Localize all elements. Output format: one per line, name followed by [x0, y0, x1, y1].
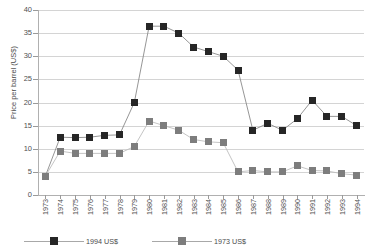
chart-legend: 1994 US$1973 US$: [24, 234, 246, 248]
data-point-marker: [235, 67, 242, 74]
x-tick-label: 1982: [175, 199, 184, 215]
y-tick-label: 10: [8, 144, 32, 153]
data-point-marker: [146, 23, 153, 30]
data-point-marker: [86, 134, 93, 141]
legend-swatch: [178, 237, 186, 245]
x-tick-label: 1979: [130, 199, 139, 215]
data-point-marker: [235, 168, 242, 175]
y-tick-label: 0: [8, 190, 32, 199]
y-tick-label: 30: [8, 51, 32, 60]
x-axis-line: [38, 195, 365, 196]
data-point-marker: [190, 136, 197, 143]
data-point-marker: [309, 97, 316, 104]
data-point-marker: [249, 127, 256, 134]
x-tick-label: 1975: [71, 199, 80, 215]
x-tick-label: 1989: [279, 199, 288, 215]
x-tick-label: 1991: [308, 199, 317, 215]
x-tick-label: 1990: [293, 199, 302, 215]
data-point-marker: [101, 150, 108, 157]
data-point-marker: [323, 113, 330, 120]
x-tick-label: 1988: [264, 199, 273, 215]
data-point-marker: [190, 44, 197, 51]
x-tick-label: 1974: [56, 199, 65, 215]
x-tick-label: 1985: [219, 199, 228, 215]
legend-entry: 1973 US$: [152, 237, 246, 246]
x-tick-label: 1973: [41, 199, 50, 215]
data-point-marker: [42, 173, 49, 180]
data-point-marker: [353, 172, 360, 179]
data-point-marker: [160, 23, 167, 30]
data-point-marker: [279, 127, 286, 134]
data-point-marker: [131, 143, 138, 150]
data-point-marker: [160, 122, 167, 129]
y-tick-label: 35: [8, 28, 32, 37]
x-tick-label: 1981: [160, 199, 169, 215]
data-point-marker: [57, 148, 64, 155]
y-tick-label: 25: [8, 74, 32, 83]
data-point-marker: [57, 134, 64, 141]
y-tick-label: 5: [8, 167, 32, 176]
data-point-marker: [101, 132, 108, 139]
x-tick-label: 1978: [116, 199, 125, 215]
data-point-marker: [249, 167, 256, 174]
legend-line-segment: [186, 241, 212, 242]
data-point-marker: [146, 118, 153, 125]
data-point-marker: [72, 150, 79, 157]
x-tick-label: 1976: [86, 199, 95, 215]
data-point-marker: [116, 150, 123, 157]
price-per-barrel-line-chart: Price per barrel (US$) 0510152025303540 …: [0, 0, 370, 251]
data-point-marker: [309, 167, 316, 174]
data-point-marker: [323, 167, 330, 174]
data-point-marker: [220, 53, 227, 60]
data-point-marker: [175, 30, 182, 37]
data-point-marker: [72, 134, 79, 141]
x-tick-label: 1984: [204, 199, 213, 215]
data-point-marker: [205, 48, 212, 55]
x-tick-label: 1977: [101, 199, 110, 215]
plot-area: [38, 10, 364, 195]
x-tick-label: 1993: [338, 199, 347, 215]
data-point-marker: [264, 120, 271, 127]
legend-line-segment: [24, 241, 50, 242]
x-tick-label: 1994: [353, 199, 362, 215]
data-point-marker: [338, 113, 345, 120]
data-point-marker: [264, 168, 271, 175]
legend-line-segment: [152, 241, 178, 242]
x-tick-label: 1983: [190, 199, 199, 215]
legend-label: 1994 US$: [86, 237, 118, 246]
data-point-marker: [279, 168, 286, 175]
legend-line-segment: [58, 241, 84, 242]
data-point-marker: [338, 170, 345, 177]
legend-entry: 1994 US$: [24, 237, 118, 246]
data-point-marker: [116, 131, 123, 138]
legend-label: 1973 US$: [214, 237, 246, 246]
data-point-marker: [294, 115, 301, 122]
data-point-marker: [131, 99, 138, 106]
data-point-marker: [205, 138, 212, 145]
x-tick-label: 1986: [234, 199, 243, 215]
x-tick-label: 1980: [145, 199, 154, 215]
legend-swatch: [50, 237, 58, 245]
data-point-marker: [86, 150, 93, 157]
x-tick-label: 1992: [323, 199, 332, 215]
data-point-marker: [294, 162, 301, 169]
data-point-marker: [353, 122, 360, 129]
y-tick-label: 15: [8, 121, 32, 130]
data-point-marker: [220, 139, 227, 146]
y-tick-label: 20: [8, 98, 32, 107]
y-tick-label: 40: [8, 5, 32, 14]
data-point-marker: [175, 127, 182, 134]
x-tick-label: 1987: [249, 199, 258, 215]
